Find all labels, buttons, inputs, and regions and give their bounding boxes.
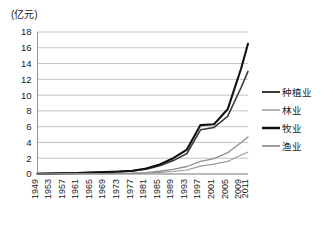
- x-tick-label: 1973: [111, 179, 121, 199]
- y-tick-label: 6: [26, 121, 31, 132]
- axes-group: [38, 32, 249, 174]
- y-tick-label: 14: [21, 58, 32, 69]
- x-axis-tick-labels: 1949195319571961196519691973197719811985…: [30, 179, 251, 199]
- line-chart-figure: (亿元) 181614121086420 1949195319571961196…: [0, 0, 333, 228]
- legend-label: 林业: [282, 105, 302, 116]
- x-tick-label: 1953: [43, 179, 53, 199]
- y-tick-label: 12: [21, 74, 32, 85]
- x-tick-label: 1969: [97, 179, 107, 199]
- legend-label: 种植业: [282, 87, 312, 98]
- x-tick-label: 1957: [57, 179, 67, 199]
- y-tick-label: 10: [21, 90, 32, 101]
- y-tick-label: 2: [26, 153, 31, 164]
- y-tick-label: 4: [26, 137, 31, 148]
- y-tick-label: 8: [26, 105, 31, 116]
- chart-canvas: 181614121086420 194919531957196119651969…: [0, 0, 333, 228]
- x-tick-label: 1997: [192, 179, 202, 199]
- x-tick-label: 1993: [179, 179, 189, 199]
- x-tick-label: 2001: [206, 179, 216, 199]
- y-tick-label: 16: [21, 42, 32, 53]
- y-tick-label: 18: [21, 26, 32, 37]
- x-tick-label: 1949: [30, 179, 40, 199]
- x-tick-label: 2005: [220, 179, 230, 199]
- gridlines-group: [38, 32, 249, 174]
- x-tick-label: 1965: [84, 179, 94, 199]
- series-line: [38, 152, 249, 174]
- y-axis-tick-labels: 181614121086420: [21, 26, 32, 179]
- x-tick-label: 1961: [70, 179, 80, 199]
- x-tick-label: 1981: [138, 179, 148, 199]
- x-tick-label: 1989: [165, 179, 175, 199]
- x-tick-label: 1985: [152, 179, 162, 199]
- x-tick-label: 1977: [125, 179, 135, 199]
- x-tick-label: 2011: [240, 179, 250, 198]
- legend-label: 渔业: [282, 141, 302, 152]
- legend-label: 牧业: [282, 123, 302, 134]
- chart-legend: 种植业林业牧业渔业: [262, 87, 312, 152]
- y-tick-label: 0: [26, 168, 31, 179]
